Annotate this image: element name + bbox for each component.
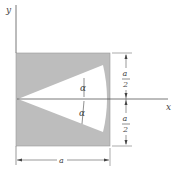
- upper-half-den: 2: [122, 80, 128, 89]
- x-axis-label: x: [166, 102, 171, 112]
- upper-half-num: a: [123, 69, 128, 78]
- y-axis-label: y: [5, 5, 12, 15]
- arrowhead-icon: [125, 54, 128, 59]
- arrowhead-icon: [17, 159, 22, 162]
- width-label: a: [59, 156, 64, 165]
- lower-half-den: 2: [122, 125, 128, 134]
- arrowhead-icon: [125, 100, 128, 105]
- lower-half-num: a: [123, 114, 128, 123]
- arrowhead-icon: [125, 140, 128, 145]
- arrowhead-icon: [125, 93, 128, 98]
- alpha-upper-label: α: [80, 83, 86, 93]
- diagram-canvas: y x α α a 2 a 2 a: [0, 0, 176, 176]
- arrowhead-icon: [104, 159, 109, 162]
- alpha-lower-label: α: [79, 108, 85, 118]
